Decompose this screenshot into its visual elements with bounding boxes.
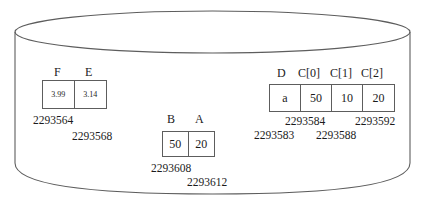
memory-layout-diagram: F E 3.99 3.14 2293564 2293568 B A 50 20 … <box>0 0 425 207</box>
address-label-2293583: 2293583 <box>254 130 294 142</box>
variable-label-c1: C[1] <box>330 67 352 79</box>
address-label-2293584: 2293584 <box>285 116 325 128</box>
memory-block-ba: 50 20 <box>162 131 215 157</box>
address-label-2293592: 2293592 <box>355 116 395 128</box>
variable-label-a: A <box>195 113 204 125</box>
variable-label-c2: C[2] <box>361 67 383 79</box>
memory-cell-c2: 20 <box>363 85 394 111</box>
memory-cell-d: a <box>270 85 301 111</box>
memory-block-fe: 3.99 3.14 <box>42 80 107 109</box>
variable-label-b: B <box>167 113 175 125</box>
address-label-2293612: 2293612 <box>187 177 227 189</box>
memory-cell-a: 20 <box>189 132 215 156</box>
variable-label-f: F <box>54 66 61 78</box>
memory-cell-f: 3.99 <box>43 81 75 108</box>
memory-cell-c0: 50 <box>301 85 332 111</box>
address-label-2293588: 2293588 <box>316 130 356 142</box>
variable-label-c0: C[0] <box>298 67 320 79</box>
address-label-2293608: 2293608 <box>151 163 191 175</box>
memory-cell-e: 3.14 <box>75 81 107 108</box>
memory-block-dc: a 50 10 20 <box>269 84 395 112</box>
address-label-2293564: 2293564 <box>33 115 73 127</box>
variable-label-d: D <box>277 67 286 79</box>
memory-cell-b: 50 <box>163 132 189 156</box>
cylinder-top-ellipse <box>15 11 410 53</box>
variable-label-e: E <box>85 66 92 78</box>
memory-cell-c1: 10 <box>332 85 363 111</box>
address-label-2293568: 2293568 <box>72 131 112 143</box>
